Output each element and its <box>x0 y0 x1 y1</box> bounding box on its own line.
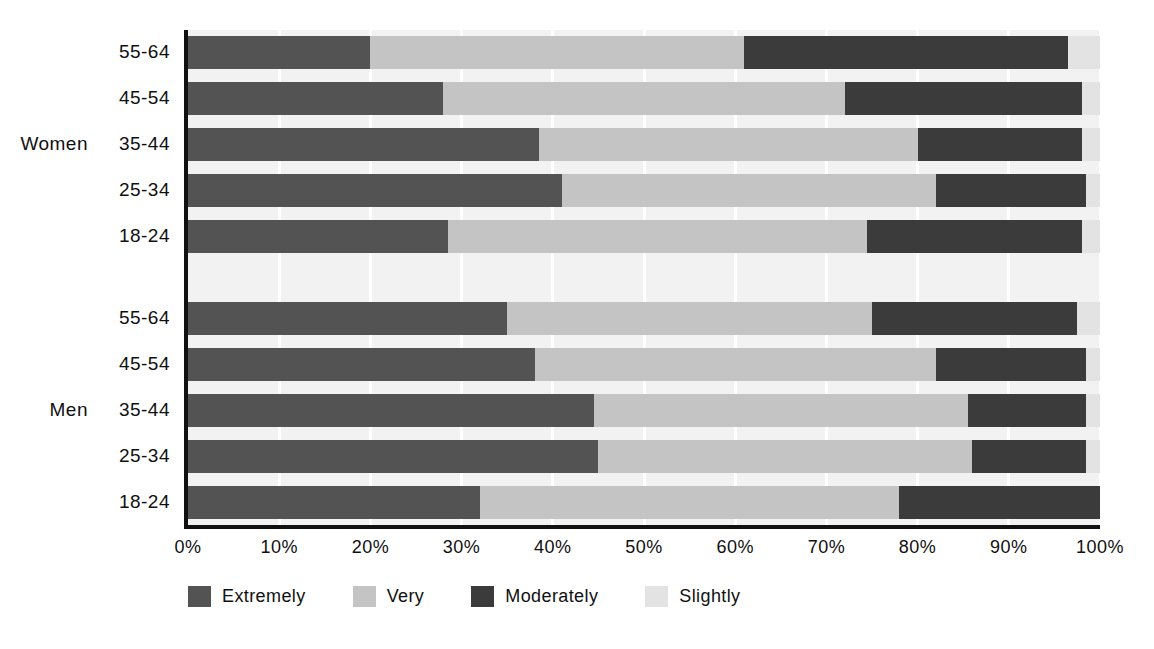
bar-row <box>188 394 1100 427</box>
bar-segment-slightly <box>1086 440 1100 473</box>
legend-label: Extremely <box>222 586 306 607</box>
stacked-bar-chart: 55-6445-5435-4425-3418-2455-6445-5435-44… <box>0 0 1154 649</box>
bar-segment-very <box>562 174 936 207</box>
bar-segment-moderately <box>872 302 1077 335</box>
bar-segment-extremely <box>188 36 370 69</box>
x-tick-80: 80% <box>899 537 937 558</box>
category-label-women-45-54: 45-54 <box>50 87 170 109</box>
bar-segment-very <box>448 220 868 253</box>
bar-row <box>188 348 1100 381</box>
bar-segment-very <box>480 486 900 519</box>
bar-row <box>188 302 1100 335</box>
bar-segment-extremely <box>188 82 443 115</box>
bar-row <box>188 220 1100 253</box>
legend: ExtremelyVeryModeratelySlightly <box>188 586 788 607</box>
bar-segment-extremely <box>188 348 535 381</box>
bar-segment-extremely <box>188 220 448 253</box>
bar-segment-very <box>507 302 872 335</box>
bar-segment-slightly <box>1068 36 1100 69</box>
legend-swatch-icon <box>471 586 494 607</box>
x-tick-100: 100% <box>1076 537 1124 558</box>
bar-segment-very <box>539 128 917 161</box>
bar-segment-very <box>535 348 936 381</box>
bar-segment-slightly <box>1086 394 1100 427</box>
bar-segment-slightly <box>1082 220 1100 253</box>
bar-segment-slightly <box>1086 348 1100 381</box>
x-tick-40: 40% <box>534 537 572 558</box>
bar-segment-moderately <box>936 348 1086 381</box>
plot-area <box>188 30 1100 525</box>
bar-segment-moderately <box>936 174 1086 207</box>
bar-segment-moderately <box>867 220 1081 253</box>
x-tick-0: 0% <box>174 537 201 558</box>
bar-segment-extremely <box>188 174 562 207</box>
legend-label: Moderately <box>505 586 598 607</box>
bar-segment-slightly <box>1086 174 1100 207</box>
group-label-women: Women <box>0 133 88 155</box>
bar-row <box>188 36 1100 69</box>
bar-segment-moderately <box>972 440 1086 473</box>
category-label-men-55-64: 55-64 <box>50 307 170 329</box>
category-label-women-18-24: 18-24 <box>50 225 170 247</box>
bar-row <box>188 128 1100 161</box>
x-tick-50: 50% <box>625 537 663 558</box>
bar-segment-slightly <box>1082 82 1100 115</box>
bar-segment-moderately <box>899 486 1100 519</box>
bar-segment-very <box>370 36 744 69</box>
category-label-men-18-24: 18-24 <box>50 491 170 513</box>
bar-segment-extremely <box>188 302 507 335</box>
bar-segment-moderately <box>845 82 1082 115</box>
bar-segment-extremely <box>188 440 598 473</box>
legend-swatch-icon <box>645 586 668 607</box>
bar-segment-moderately <box>968 394 1087 427</box>
x-tick-60: 60% <box>716 537 754 558</box>
bar-segment-very <box>598 440 972 473</box>
y-axis-spine <box>184 30 188 525</box>
category-label-women-55-64: 55-64 <box>50 41 170 63</box>
bar-segment-very <box>443 82 844 115</box>
category-label-men-45-54: 45-54 <box>50 353 170 375</box>
legend-item-slightly[interactable]: Slightly <box>645 586 740 607</box>
bar-row <box>188 82 1100 115</box>
x-axis-spine <box>184 525 1100 529</box>
x-tick-30: 30% <box>443 537 481 558</box>
category-label-women-25-34: 25-34 <box>50 179 170 201</box>
legend-label: Very <box>387 586 425 607</box>
bar-segment-extremely <box>188 394 594 427</box>
bar-row <box>188 174 1100 207</box>
legend-item-moderately[interactable]: Moderately <box>471 586 598 607</box>
bar-segment-moderately <box>918 128 1082 161</box>
bar-row <box>188 440 1100 473</box>
bar-segment-slightly <box>1082 128 1100 161</box>
legend-swatch-icon <box>353 586 376 607</box>
x-tick-70: 70% <box>808 537 846 558</box>
x-tick-20: 20% <box>352 537 390 558</box>
bar-segment-extremely <box>188 128 539 161</box>
bar-segment-slightly <box>1077 302 1100 335</box>
x-tick-90: 90% <box>990 537 1028 558</box>
bar-segment-moderately <box>744 36 1068 69</box>
category-label-men-25-34: 25-34 <box>50 445 170 467</box>
bar-segment-very <box>594 394 968 427</box>
legend-item-very[interactable]: Very <box>353 586 425 607</box>
bar-segment-extremely <box>188 486 480 519</box>
legend-item-extremely[interactable]: Extremely <box>188 586 306 607</box>
group-label-men: Men <box>0 399 88 421</box>
bar-row <box>188 486 1100 519</box>
legend-label: Slightly <box>679 586 740 607</box>
legend-swatch-icon <box>188 586 211 607</box>
x-tick-10: 10% <box>260 537 298 558</box>
